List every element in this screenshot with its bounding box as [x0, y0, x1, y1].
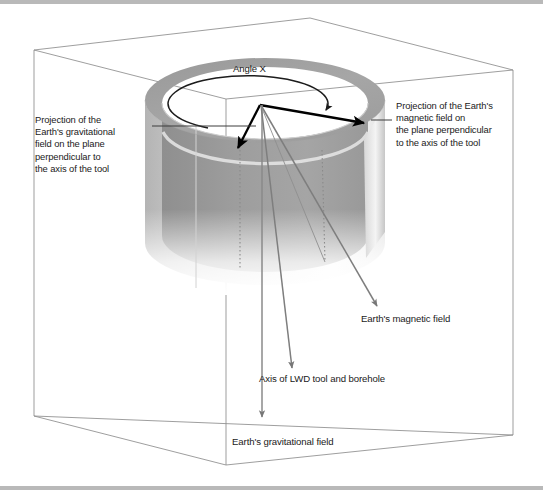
box-bottom-diagonal	[34, 416, 513, 435]
cylinder-bottom-fade	[140, 130, 392, 295]
diagram-canvas	[0, 0, 543, 490]
vector-magnetic-projection	[260, 105, 364, 123]
angle-x-arc-group	[168, 76, 328, 128]
cylinder-assembly	[140, 58, 392, 295]
label-earth-magnetic-field: Earth's magnetic field	[361, 313, 450, 325]
label-earth-gravitational-field: Earth's gravitational field	[232, 436, 334, 448]
figure-container: Projection of the Earth's gravitational …	[0, 0, 543, 490]
bottom-divider-rule	[0, 486, 543, 490]
label-axis-lwd-tool: Axis of LWD tool and borehole	[259, 373, 385, 385]
label-angle-x: Angle X	[233, 63, 266, 75]
angle-x-arc	[168, 76, 328, 128]
label-gravitational-projection: Projection of the Earth's gravitational …	[35, 114, 153, 175]
label-magnetic-projection: Projection of the Earth's magnetic field…	[396, 100, 538, 149]
